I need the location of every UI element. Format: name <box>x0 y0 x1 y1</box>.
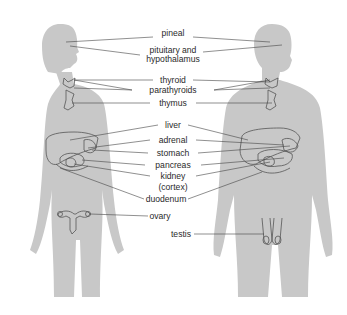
label-stomach: stomach <box>156 149 190 158</box>
label-parathyroids: parathyroids <box>148 86 197 95</box>
label-testis: testis <box>170 230 192 239</box>
label-hypothalamus: hypothalamus <box>145 55 201 64</box>
male-silhouette <box>213 24 332 297</box>
label-pineal: pineal <box>161 29 186 38</box>
label-thyroid: thyroid <box>159 76 187 85</box>
label-pancreas: pancreas <box>154 161 191 170</box>
label-kidney: kidney <box>160 172 187 181</box>
label-cortex: (cortex) <box>157 183 188 192</box>
endocrine-diagram: pineal pituitary and hypothalamus thyroi… <box>0 0 347 315</box>
label-adrenal: adrenal <box>158 136 189 145</box>
label-ovary: ovary <box>148 212 171 221</box>
female-silhouette <box>30 24 124 297</box>
label-duodenum: duodenum <box>145 195 188 204</box>
label-thymus: thymus <box>158 99 188 108</box>
label-liver: liver <box>164 121 182 130</box>
